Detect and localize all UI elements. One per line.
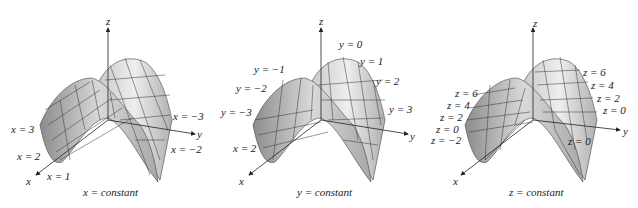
panel-caption: z = constant: [509, 186, 563, 198]
level-label: y = 1: [360, 56, 383, 67]
panel-z-constant: z y x z = 6 z = 4 z = 2 z = 0 z = −2 z =…: [425, 0, 638, 208]
level-label: z = 0: [568, 136, 591, 147]
z-axis-label: z: [533, 18, 537, 29]
level-label: z = −2: [431, 135, 461, 146]
y-axis-label: y: [623, 126, 628, 137]
panel-caption: x = constant: [83, 186, 138, 198]
level-label: x = 2: [17, 151, 40, 162]
y-axis-label: y: [410, 131, 415, 142]
level-label: z = 6: [583, 67, 606, 78]
level-label: z = 4: [447, 100, 470, 111]
level-label: x = 1: [47, 171, 70, 182]
level-label: x = 3: [11, 124, 34, 135]
level-label: x = −2: [171, 144, 202, 155]
panel-caption: y = constant: [297, 186, 352, 198]
level-label: y = −2: [236, 83, 267, 94]
level-label: x = −3: [173, 111, 204, 122]
level-label: y = 3: [389, 104, 412, 115]
level-label: z = 2: [440, 112, 463, 123]
level-label: z = 6: [455, 88, 478, 99]
level-label: x = 2: [233, 143, 256, 154]
level-label: z = 0: [603, 105, 626, 116]
level-label: y = −1: [254, 64, 285, 75]
level-label: y = −3: [221, 107, 252, 118]
level-label: z = 4: [591, 80, 614, 91]
y-axis-label: y: [197, 129, 202, 140]
level-label: y = 0: [339, 39, 362, 50]
level-label: z = 2: [597, 93, 620, 104]
panel-y-constant: z y x y = 0 y = 1 y = −1 y = 2 y = −2 y …: [213, 0, 426, 208]
x-axis-label: x: [26, 176, 31, 187]
panel-x-constant: z y x x = 3 x = 2 x = 1 x = −3 x = −2 x …: [0, 0, 213, 208]
x-axis-label: x: [453, 176, 458, 187]
z-axis-label: z: [319, 16, 323, 27]
level-label: y = 2: [376, 76, 399, 87]
x-axis-label: x: [239, 176, 244, 187]
saddle-surface-graphic: [0, 0, 213, 208]
z-axis-label: z: [106, 16, 110, 27]
